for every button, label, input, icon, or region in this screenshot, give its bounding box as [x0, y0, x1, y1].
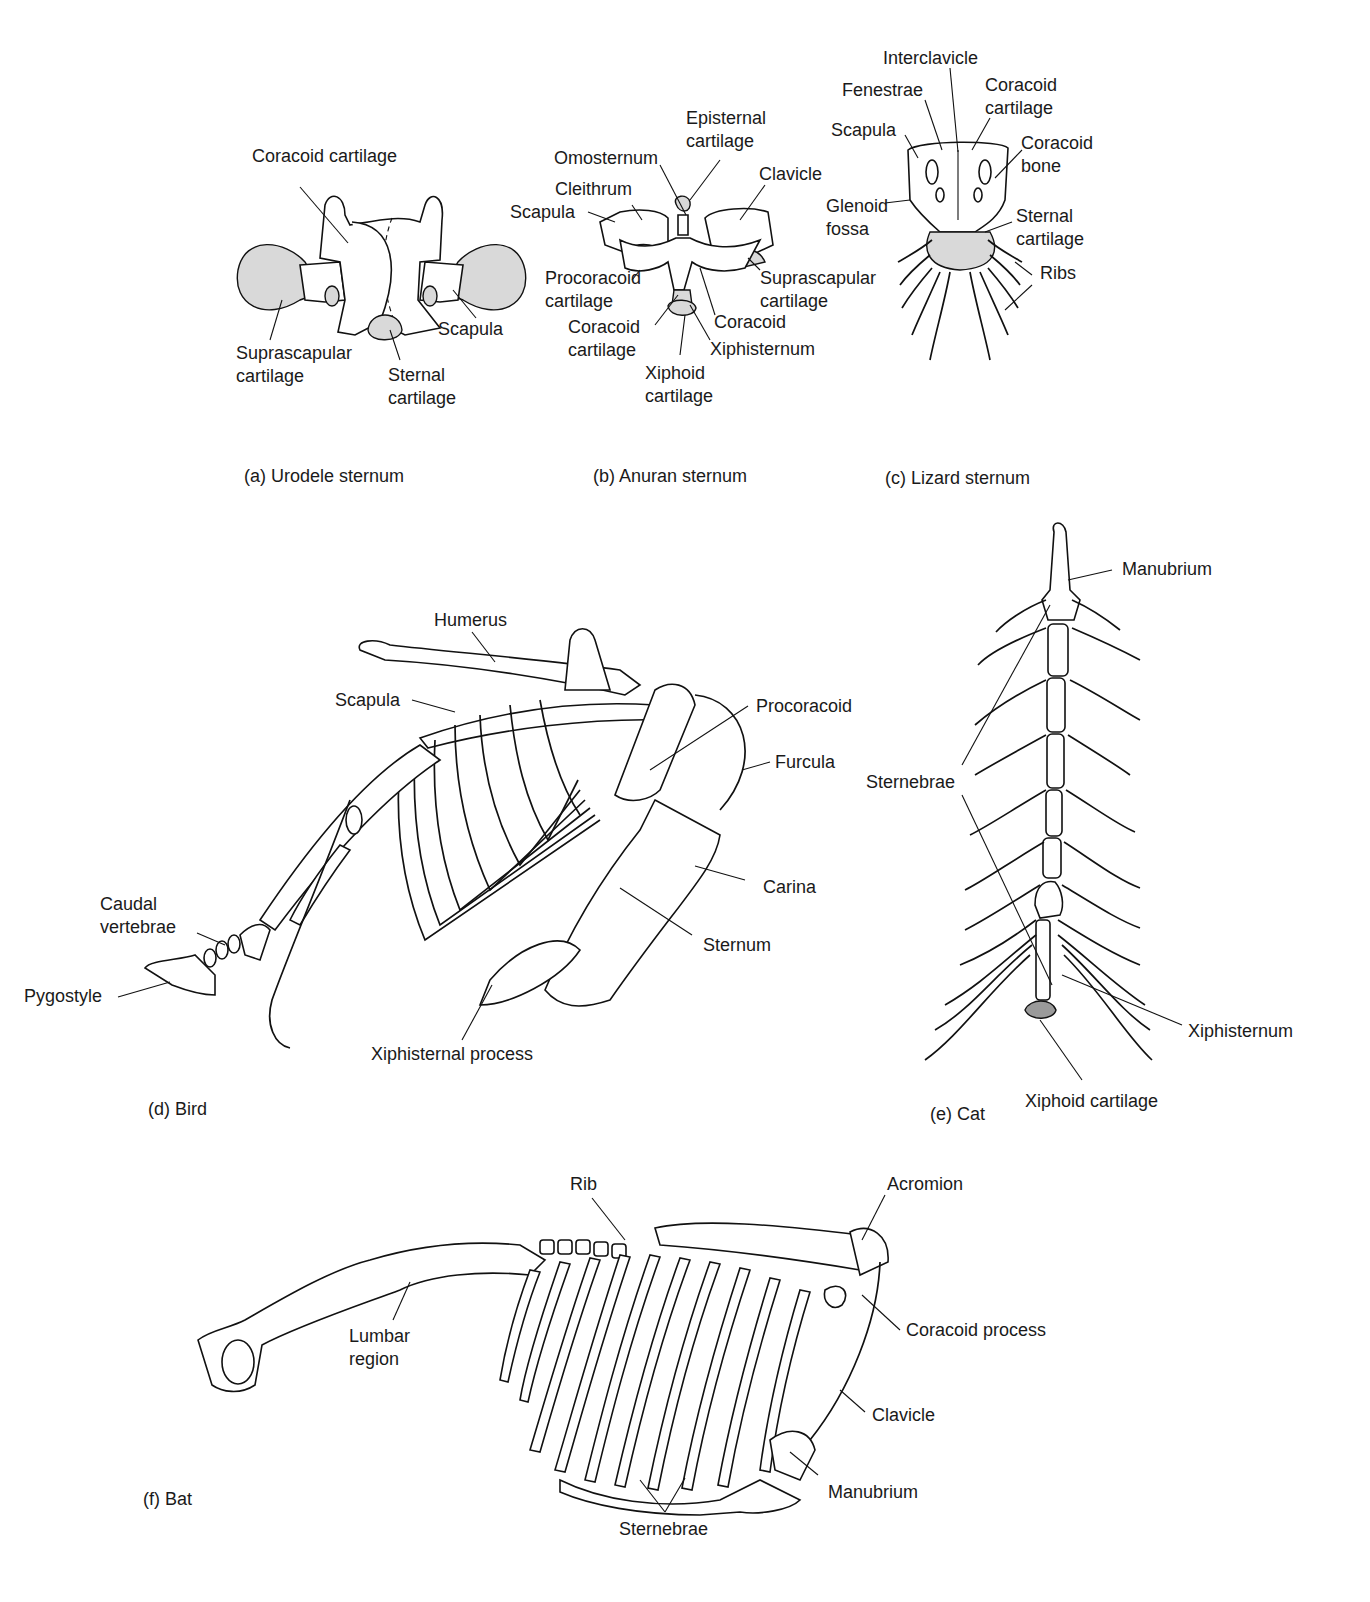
sternum-comparison-diagram: [0, 0, 1370, 1602]
label-scapula: Scapula: [335, 689, 400, 712]
label-clavicle: Clavicle: [872, 1404, 935, 1427]
label-sternal-cartilage: Sternal cartilage: [1016, 205, 1084, 251]
label-episternal-cartilage: Episternal cartilage: [686, 107, 766, 153]
label-suprascapular-cartilage: Suprascapular cartilage: [236, 342, 352, 388]
label-sternum: Sternum: [703, 934, 771, 957]
label-glenoid-fossa: Glenoid fossa: [826, 195, 888, 241]
caption-bat: (f) Bat: [143, 1488, 192, 1510]
label-sternebrae: Sternebrae: [619, 1518, 708, 1541]
label-coracoid-bone: Coracoid bone: [1021, 132, 1093, 178]
label-xiphisternum: Xiphisternum: [710, 338, 815, 361]
label-procoracoid: Procoracoid: [756, 695, 852, 718]
label-omosternum: Omosternum: [554, 147, 658, 170]
caption-bird: (d) Bird: [148, 1098, 207, 1120]
label-interclavicle: Interclavicle: [883, 47, 978, 70]
caption-anuran-sternum: (b) Anuran sternum: [593, 465, 747, 487]
label-lumbar-region: Lumbar region: [349, 1325, 410, 1371]
label-suprascapular-cartilage: Suprascapular cartilage: [760, 267, 876, 313]
label-pygostyle: Pygostyle: [24, 985, 102, 1008]
cat-sternum-drawing: [925, 523, 1182, 1080]
label-manubrium: Manubrium: [1122, 558, 1212, 581]
caption-lizard-sternum: (c) Lizard sternum: [885, 467, 1030, 489]
label-acromion: Acromion: [887, 1173, 963, 1196]
bat-skeleton-drawing: [198, 1195, 900, 1515]
label-caudal-vertebrae: Caudal vertebrae: [100, 893, 176, 939]
label-coracoid-cartilage: Coracoid cartilage: [985, 74, 1057, 120]
label-ribs: Ribs: [1040, 262, 1076, 285]
label-coracoid: Coracoid: [714, 311, 786, 334]
label-coracoid-process: Coracoid process: [906, 1319, 1046, 1342]
label-scapula: Scapula: [510, 201, 575, 224]
bird-skeleton-drawing: [118, 629, 770, 1048]
caption-cat: (e) Cat: [930, 1103, 985, 1125]
label-xiphoid-cartilage: Xiphoid cartilage: [1025, 1090, 1158, 1113]
label-coracoid-cartilage: Coracoid cartilage: [252, 145, 397, 168]
label-xiphisternum: Xiphisternum: [1188, 1020, 1293, 1043]
label-manubrium: Manubrium: [828, 1481, 918, 1504]
label-humerus: Humerus: [434, 609, 507, 632]
label-cleithrum: Cleithrum: [555, 178, 632, 201]
label-furcula: Furcula: [775, 751, 835, 774]
label-carina: Carina: [763, 876, 816, 899]
label-sternebrae: Sternebrae: [866, 771, 955, 794]
label-sternal-cartilage: Sternal cartilage: [388, 364, 456, 410]
label-clavicle: Clavicle: [759, 163, 822, 186]
label-rib: Rib: [570, 1173, 597, 1196]
label-scapula: Scapula: [438, 318, 503, 341]
caption-urodele-sternum: (a) Urodele sternum: [244, 465, 404, 487]
label-scapula: Scapula: [831, 119, 896, 142]
label-fenestrae: Fenestrae: [842, 79, 923, 102]
label-coracoid-cartilage: Coracoid cartilage: [568, 316, 640, 362]
label-xiphisternal-process: Xiphisternal process: [371, 1043, 533, 1066]
label-xiphoid-cartilage: Xiphoid cartilage: [645, 362, 713, 408]
label-procoracoid-cartilage: Procoracoid cartilage: [545, 267, 641, 313]
